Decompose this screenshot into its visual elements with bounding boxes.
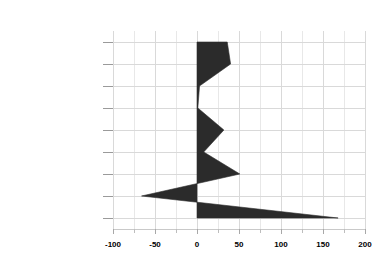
x-axis-tick-label: 0 [195,240,199,249]
y-axis-tick [103,64,113,65]
gridline-vertical [365,31,366,229]
x-axis-minor-tick [344,229,345,233]
chart-container: ServicesFin, Ins, Real Est.Retail TradeW… [0,0,378,278]
y-axis-tick [103,130,113,131]
x-axis-tick-label: 150 [316,240,329,249]
x-axis-minor-tick [260,229,261,233]
x-axis-tick-label: -100 [105,240,121,249]
y-axis-tick [103,152,113,153]
y-axis-tick [103,108,113,109]
x-axis-minor-tick [134,229,135,233]
x-axis-tick [197,229,198,234]
series-area-chart [113,31,365,229]
x-axis-minor-tick [218,229,219,233]
x-axis-tick-label: 200 [358,240,371,249]
x-axis-tick-label: 50 [235,240,244,249]
x-axis-tick [323,229,324,234]
x-axis-tick-label: -50 [149,240,161,249]
y-axis-tick [103,42,113,43]
y-axis-tick [103,218,113,219]
series-polygon [142,42,339,218]
x-axis-tick [281,229,282,234]
y-axis-tick [103,196,113,197]
x-axis-minor-tick [176,229,177,233]
y-axis-tick [103,174,113,175]
x-axis-tick [155,229,156,234]
x-axis-minor-tick [302,229,303,233]
y-axis-tick [103,86,113,87]
x-axis-tick [239,229,240,234]
x-axis-tick [365,229,366,234]
x-axis-tick-label: 100 [274,240,287,249]
x-axis-tick [113,229,114,234]
plot-area [113,31,365,229]
